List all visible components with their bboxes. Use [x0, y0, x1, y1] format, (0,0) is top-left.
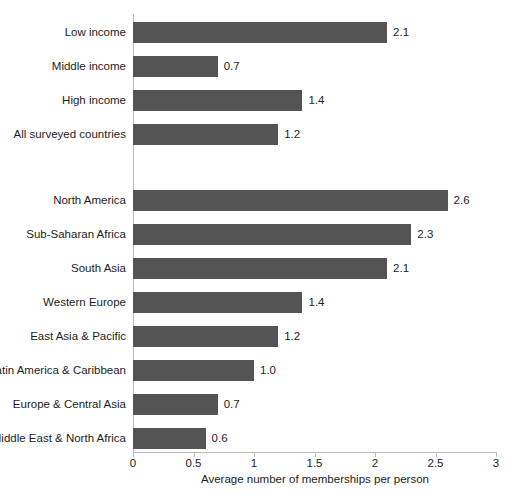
bar	[133, 190, 448, 211]
bar	[133, 326, 278, 347]
bar	[133, 56, 218, 77]
bar-row: East Asia & Pacific1.2	[133, 326, 496, 347]
bar-value-label: 2.6	[454, 195, 470, 207]
bar-value-label: 0.6	[212, 433, 228, 445]
bar-row: Middle income0.7	[133, 56, 496, 77]
bar-value-label: 1.4	[308, 95, 324, 107]
x-axis-tick-label: 2	[372, 458, 378, 470]
x-axis-tick-label: 0.5	[186, 458, 202, 470]
bar-row: Europe & Central Asia0.7	[133, 394, 496, 415]
x-axis-title: Average number of memberships per person	[133, 474, 497, 486]
category-label: Low income	[65, 27, 126, 39]
bar-value-label: 2.3	[417, 229, 433, 241]
bar-value-label: 1.0	[260, 365, 276, 377]
x-axis-tick-label: 1	[251, 458, 257, 470]
bar-row: Middle East & North Africa0.6	[133, 428, 496, 449]
bar-value-label: 1.2	[284, 331, 300, 343]
category-label: East Asia & Pacific	[30, 331, 126, 343]
category-label: Middle East & North Africa	[0, 433, 126, 445]
category-label: Latin America & Caribbean	[0, 365, 126, 377]
bar-row: North America2.6	[133, 190, 496, 211]
bar	[133, 292, 302, 313]
bar-value-label: 0.7	[224, 61, 240, 73]
bar	[133, 258, 387, 279]
bar	[133, 224, 411, 245]
bar-row: All surveyed countries1.2	[133, 124, 496, 145]
bar-value-label: 1.4	[308, 297, 324, 309]
category-label: South Asia	[71, 263, 126, 275]
category-label: Western Europe	[43, 297, 126, 309]
bar-row: Western Europe1.4	[133, 292, 496, 313]
category-label: Sub-Saharan Africa	[26, 229, 126, 241]
bar-chart: Low income2.1Middle income0.7High income…	[0, 0, 517, 496]
bar	[133, 90, 302, 111]
bar-row: Latin America & Caribbean1.0	[133, 360, 496, 381]
bar-value-label: 0.7	[224, 399, 240, 411]
x-axis-tick-label: 1.5	[307, 458, 323, 470]
bar-value-label: 2.1	[393, 263, 409, 275]
bar	[133, 124, 278, 145]
bar-row: Low income2.1	[133, 22, 496, 43]
plot-area: Low income2.1Middle income0.7High income…	[133, 14, 496, 452]
category-label: Middle income	[52, 61, 126, 73]
x-axis-tick-label: 0	[130, 458, 136, 470]
category-label: North America	[53, 195, 126, 207]
category-label: Europe & Central Asia	[13, 399, 126, 411]
category-label: All surveyed countries	[14, 129, 127, 141]
bar-row: South Asia2.1	[133, 258, 496, 279]
bar	[133, 394, 218, 415]
bar-value-label: 2.1	[393, 27, 409, 39]
x-axis-tick-label: 2.5	[428, 458, 444, 470]
bar-value-label: 1.2	[284, 129, 300, 141]
bar	[133, 360, 254, 381]
category-label: High income	[62, 95, 126, 107]
bar	[133, 22, 387, 43]
bar-row: High income1.4	[133, 90, 496, 111]
bar	[133, 428, 206, 449]
x-axis-tick-label: 3	[493, 458, 499, 470]
bar-row: Sub-Saharan Africa2.3	[133, 224, 496, 245]
